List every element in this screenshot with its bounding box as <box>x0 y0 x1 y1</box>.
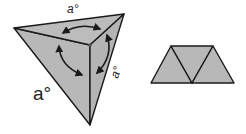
right-angle-label: a° <box>108 64 125 80</box>
top-angle-label: a° <box>67 2 79 16</box>
tetrahedron-net <box>151 46 234 83</box>
apex-vertex <box>88 43 92 47</box>
tetrahedron: a° a° a° <box>14 2 125 125</box>
diagram-canvas: a° a° a° <box>0 0 246 134</box>
left-angle-label: a° <box>33 83 51 104</box>
